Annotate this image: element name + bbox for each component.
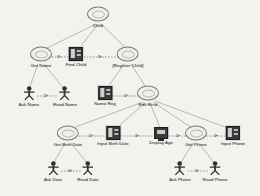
use-case-oval-icon	[137, 86, 159, 101]
sequence-markers: ⊳ ⊳ ⊳ ⊳ ⊳ ⊳ ⊳ ⊳ ⊳ ⊳	[44, 54, 218, 173]
node-label-get-birth-date: Get Birth Date	[54, 142, 83, 147]
node-input-phone[interactable]: Input Phone	[221, 126, 245, 146]
actor-icon	[23, 86, 36, 101]
node-get-name[interactable]: Get Name	[30, 47, 52, 68]
node-ask-name[interactable]: Ask Name	[19, 86, 40, 107]
node-label-input-birth-date: Input Birth Date	[97, 141, 128, 146]
node-label-name-reg: Name Reg	[94, 101, 115, 106]
actor-icon	[174, 161, 187, 176]
node-label-find-child: Find Child	[66, 62, 86, 67]
marker-seq-3: ⊳	[44, 93, 48, 98]
node-label-get-phone: Get Phone	[185, 142, 206, 147]
sequence-links	[37, 57, 226, 171]
node-label-input-phone: Input Phone	[221, 141, 245, 146]
node-register-child[interactable]: [Register Child]	[113, 47, 144, 68]
node-label-child: Child	[93, 23, 103, 28]
marker-seq-10: ⊳	[195, 168, 199, 173]
actor-icon	[81, 161, 94, 176]
node-input-birth-date[interactable]: Input Birth Date	[97, 126, 128, 146]
actor-icon	[47, 161, 60, 176]
edge-edit-display-age	[150, 103, 161, 130]
node-label-get-name: Get Name	[31, 63, 51, 68]
marker-seq-8: ⊳	[214, 133, 218, 138]
node-child[interactable]: Child	[87, 7, 109, 28]
node-find-child[interactable]: Find Child	[66, 47, 86, 67]
form-window-icon	[226, 126, 240, 140]
form-window-icon	[98, 86, 112, 100]
use-case-oval-icon	[117, 47, 139, 62]
use-case-oval-icon	[57, 126, 79, 141]
use-case-oval-icon	[87, 7, 109, 22]
node-display-age[interactable]: Display Age	[149, 127, 173, 145]
node-label-ask-name: Ask Name	[19, 102, 40, 107]
node-ask-phone[interactable]: Ask Phone	[169, 161, 191, 182]
node-get-phone[interactable]: Get Phone	[185, 126, 207, 147]
node-read-phone[interactable]: Read Phone	[203, 161, 228, 182]
node-get-birth-date[interactable]: Get Birth Date	[54, 126, 83, 147]
node-label-ask-phone: Ask Phone	[169, 177, 191, 182]
marker-seq-6: ⊳	[135, 133, 139, 138]
node-label-read-phone: Read Phone	[203, 177, 228, 182]
node-label-edit-rcrd: Edit Rcrd	[139, 102, 158, 107]
monitor-icon	[154, 127, 168, 139]
marker-seq-9: ⊳	[68, 168, 72, 173]
actor-icon	[58, 86, 71, 101]
node-edit-rcrd[interactable]: Edit Rcrd	[137, 86, 159, 107]
marker-seq-2: ⊳	[98, 54, 102, 59]
use-case-oval-icon	[30, 47, 52, 62]
actor-icon	[208, 161, 221, 176]
marker-seq-7: ⊳	[176, 133, 180, 138]
marker-seq-5: ⊳	[89, 133, 93, 138]
node-label-register-child: [Register Child]	[113, 63, 144, 68]
node-label-read-name: Read Name	[53, 102, 77, 107]
form-window-icon	[69, 47, 83, 61]
node-read-date[interactable]: Read Date	[77, 161, 98, 182]
form-window-icon	[106, 126, 120, 140]
marker-seq-4: ⊳	[124, 93, 128, 98]
node-read-name[interactable]: Read Name	[53, 86, 77, 107]
node-ask-date[interactable]: Ask Date	[44, 161, 62, 182]
use-case-oval-icon	[185, 126, 207, 141]
marker-seq-1: ⊳	[57, 54, 61, 59]
node-label-read-date: Read Date	[77, 177, 98, 182]
node-label-ask-date: Ask Date	[44, 177, 62, 182]
node-name-reg[interactable]: Name Reg	[94, 86, 115, 106]
